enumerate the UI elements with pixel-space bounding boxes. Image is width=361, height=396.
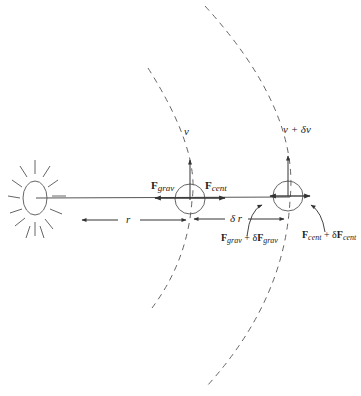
outer-fgrav-label: Fgrav + δFgrav [221, 232, 278, 245]
orbit-diagram: r δ r v v + δv Fgrav Fcent Fgrav + δFgra… [0, 0, 361, 396]
inner-velocity-label: v [184, 125, 189, 137]
sun-icon [8, 160, 66, 238]
fcent-pointer [311, 205, 325, 232]
r-label: r [126, 213, 131, 225]
inner-fgrav-label: Fgrav [151, 179, 174, 193]
outer-velocity-label: v + δv [283, 123, 311, 135]
outer-fcent-label: Fcent + δFcent [302, 229, 357, 242]
dr-label: δ r [230, 212, 243, 224]
inner-fcent-label: Fcent [205, 179, 227, 193]
